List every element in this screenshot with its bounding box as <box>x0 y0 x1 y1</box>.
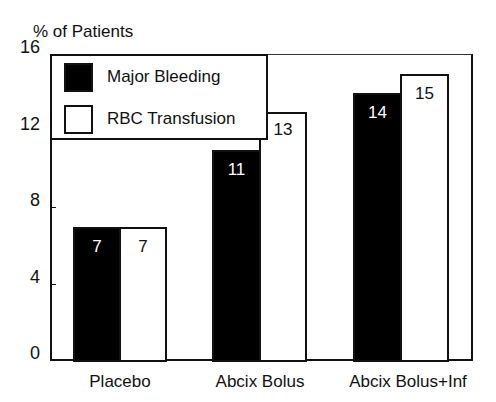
tick-mark <box>50 284 56 285</box>
tick-mark <box>50 207 56 208</box>
x-label-bolus-inf: Abcix Bolus+Inf <box>328 372 488 392</box>
bar-placebo-major-bleeding: 7 <box>73 227 121 362</box>
bar-value: 14 <box>355 103 400 123</box>
bar-placebo-rbc-transfusion: 7 <box>119 227 167 362</box>
bar-value: 11 <box>214 160 259 180</box>
legend-swatch-white <box>64 105 93 134</box>
bar-value: 7 <box>75 237 119 257</box>
y-tick-12: 12 <box>0 114 40 135</box>
bar-bolus-inf-major-bleeding: 14 <box>353 93 402 362</box>
y-tick-16: 16 <box>0 37 40 58</box>
chart: % of Patients 0 4 8 12 16 7 7 11 13 14 1… <box>0 0 496 402</box>
bar-value: 7 <box>121 237 165 257</box>
legend: Major Bleeding RBC Transfusion <box>50 54 268 140</box>
x-label-placebo: Placebo <box>70 372 170 392</box>
y-axis-label: % of Patients <box>33 22 133 42</box>
bar-bolus-inf-rbc-transfusion: 15 <box>400 74 449 362</box>
bar-value: 15 <box>402 84 447 104</box>
legend-label-rbc-transfusion: RBC Transfusion <box>107 109 236 129</box>
x-label-bolus: Abcix Bolus <box>200 372 320 392</box>
y-tick-0: 0 <box>0 343 40 364</box>
bar-bolus-rbc-transfusion: 13 <box>259 112 307 362</box>
legend-label-major-bleeding: Major Bleeding <box>107 67 220 87</box>
y-tick-8: 8 <box>0 190 40 211</box>
bar-bolus-major-bleeding: 11 <box>212 150 261 362</box>
legend-swatch-black <box>64 63 93 92</box>
y-tick-4: 4 <box>0 267 40 288</box>
